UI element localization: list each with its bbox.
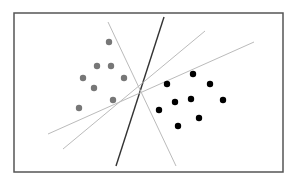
class-black-point	[220, 97, 226, 103]
diagram-frame	[14, 13, 283, 172]
class-gray-point	[106, 39, 112, 45]
class-black-point	[156, 107, 162, 113]
class-gray-point	[80, 75, 86, 81]
class-black-point	[188, 96, 194, 102]
class-gray-point	[91, 85, 97, 91]
class-black-point	[164, 81, 170, 87]
class-gray-point	[94, 63, 100, 69]
class-black-point	[207, 81, 213, 87]
class-gray-point	[76, 105, 82, 111]
class-black-point	[172, 99, 178, 105]
class-black-point	[175, 123, 181, 129]
class-black-point	[196, 115, 202, 121]
scatter-diagram	[0, 0, 294, 185]
class-gray-point	[110, 97, 116, 103]
class-black-point	[190, 71, 196, 77]
class-gray-point	[108, 63, 114, 69]
class-gray-point	[121, 75, 127, 81]
